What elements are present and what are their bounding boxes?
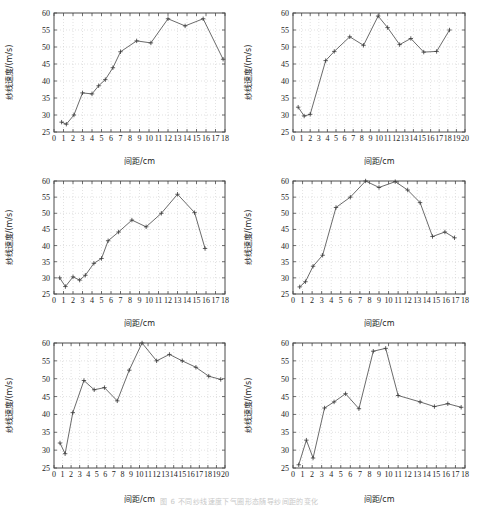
x-tick-label: 0: [291, 470, 295, 479]
y-tick-label: 35: [42, 258, 50, 267]
x-tick-label: 18: [444, 134, 452, 143]
x-tick-label: 3: [320, 470, 324, 479]
y-tick-label: 30: [42, 111, 50, 120]
x-tick-label: 0: [52, 134, 56, 143]
x-tick-label: 4: [329, 470, 333, 479]
x-tick-label: 8: [128, 134, 132, 143]
x-tick-label: 15: [432, 296, 440, 305]
y-tick-label: 50: [42, 375, 50, 384]
chart-svg: 0123456789101112131415161718253035404550…: [239, 168, 479, 330]
x-tick-label: 17: [212, 134, 220, 143]
y-tick-label: 25: [42, 464, 50, 473]
x-tick-label: 11: [144, 470, 152, 479]
x-tick-label: 8: [128, 296, 132, 305]
y-tick-label: 35: [42, 428, 50, 437]
x-tick-label: 7: [358, 470, 362, 479]
x-tick-label: 7: [358, 296, 362, 305]
x-tick-label: 7: [119, 134, 123, 143]
y-tick-label: 55: [281, 193, 289, 202]
x-tick-label: 9: [138, 296, 142, 305]
chart-panel-4: 0123456789101112131415161718253035404550…: [239, 168, 479, 330]
y-tick-label: 50: [42, 209, 50, 218]
chart-svg: 0123456789101112131415161718253035404550…: [0, 168, 239, 330]
x-tick-label: 6: [109, 296, 113, 305]
x-tick-label: 8: [367, 296, 371, 305]
x-axis-title: 间距/cm: [124, 319, 155, 328]
x-tick-label: 14: [423, 470, 431, 479]
x-tick-label: 20: [461, 134, 469, 143]
chart-panel-5: 0123456789101112131415161718192025303540…: [0, 330, 239, 506]
x-tick-label: 19: [452, 134, 460, 143]
x-tick-label: 14: [423, 296, 431, 305]
x-tick-label: 9: [377, 470, 381, 479]
x-tick-label: 17: [195, 470, 203, 479]
x-axis-title: 间距/cm: [124, 157, 155, 166]
x-tick-label: 16: [442, 296, 450, 305]
y-tick-label: 40: [42, 242, 50, 251]
x-tick-label: 20: [221, 470, 229, 479]
x-tick-label: 2: [310, 470, 314, 479]
x-tick-label: 1: [301, 470, 305, 479]
y-tick-label: 55: [281, 26, 289, 35]
y-tick-label: 45: [281, 393, 289, 402]
y-tick-label: 55: [42, 193, 50, 202]
chart-svg: 0123456789101112131415161718192025303540…: [0, 330, 239, 506]
y-tick-label: 45: [42, 393, 50, 402]
x-tick-label: 7: [119, 296, 123, 305]
chart-panel-6: 0123456789101112131415161718253035404550…: [239, 330, 479, 506]
y-tick-label: 40: [281, 410, 289, 419]
x-tick-label: 17: [212, 296, 220, 305]
x-tick-label: 7: [351, 134, 355, 143]
x-tick-label: 3: [81, 296, 85, 305]
x-tick-label: 6: [103, 470, 107, 479]
x-tick-label: 3: [78, 470, 82, 479]
x-tick-label: 5: [334, 134, 338, 143]
x-tick-label: 16: [427, 134, 435, 143]
y-tick-label: 50: [281, 209, 289, 218]
y-tick-label: 30: [42, 446, 50, 455]
y-axis-title: 纱线速度/(m/s): [243, 45, 253, 101]
y-tick-label: 50: [281, 375, 289, 384]
y-axis-title: 纱线速度/(m/s): [243, 378, 253, 434]
x-axis-title: 间距/cm: [364, 157, 395, 166]
y-tick-label: 45: [281, 60, 289, 69]
y-axis-title: 纱线速度/(m/s): [243, 210, 253, 266]
x-tick-label: 0: [291, 134, 295, 143]
x-tick-label: 11: [394, 296, 402, 305]
x-tick-label: 4: [86, 470, 90, 479]
x-tick-label: 10: [385, 296, 393, 305]
y-tick-label: 30: [281, 274, 289, 283]
x-tick-label: 12: [164, 134, 172, 143]
x-tick-label: 9: [129, 470, 133, 479]
y-axis-title: 纱线速度/(m/s): [4, 45, 14, 101]
x-tick-label: 11: [394, 470, 402, 479]
chart-panel-2: 0123456789101112131415161718192025303540…: [239, 0, 479, 168]
y-tick-label: 45: [42, 225, 50, 234]
x-tick-label: 10: [385, 470, 393, 479]
x-tick-label: 4: [329, 296, 333, 305]
chart-svg: 0123456789101112131415161718192025303540…: [239, 0, 479, 168]
x-tick-label: 2: [71, 296, 75, 305]
y-tick-label: 25: [42, 128, 50, 137]
y-tick-label: 45: [42, 60, 50, 69]
x-tick-label: 2: [310, 296, 314, 305]
y-axis-title: 纱线速度/(m/s): [4, 210, 14, 266]
y-axis-title: 纱线速度/(m/s): [4, 378, 14, 434]
y-tick-label: 55: [42, 357, 50, 366]
x-tick-label: 14: [409, 134, 417, 143]
x-tick-label: 0: [291, 296, 295, 305]
x-tick-label: 4: [90, 296, 94, 305]
x-tick-label: 10: [145, 296, 153, 305]
x-tick-label: 5: [339, 470, 343, 479]
x-tick-label: 11: [384, 134, 392, 143]
chart-panel-3: 0123456789101112131415161718253035404550…: [0, 168, 239, 330]
y-tick-label: 40: [42, 77, 50, 86]
x-tick-label: 6: [348, 470, 352, 479]
x-tick-label: 7: [112, 470, 116, 479]
y-tick-label: 60: [42, 9, 50, 18]
y-tick-label: 60: [281, 9, 289, 18]
x-tick-label: 12: [392, 134, 400, 143]
x-tick-label: 2: [71, 134, 75, 143]
x-tick-label: 13: [174, 134, 182, 143]
x-tick-label: 16: [202, 134, 210, 143]
